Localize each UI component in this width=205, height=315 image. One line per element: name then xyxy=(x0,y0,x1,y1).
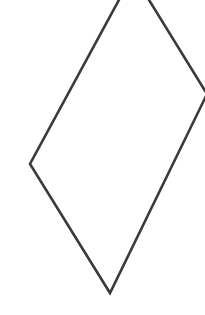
rhombus-figure xyxy=(0,0,205,315)
diagram-canvas: rhombus xyxy=(0,0,205,315)
rhombus-shape xyxy=(30,0,205,293)
